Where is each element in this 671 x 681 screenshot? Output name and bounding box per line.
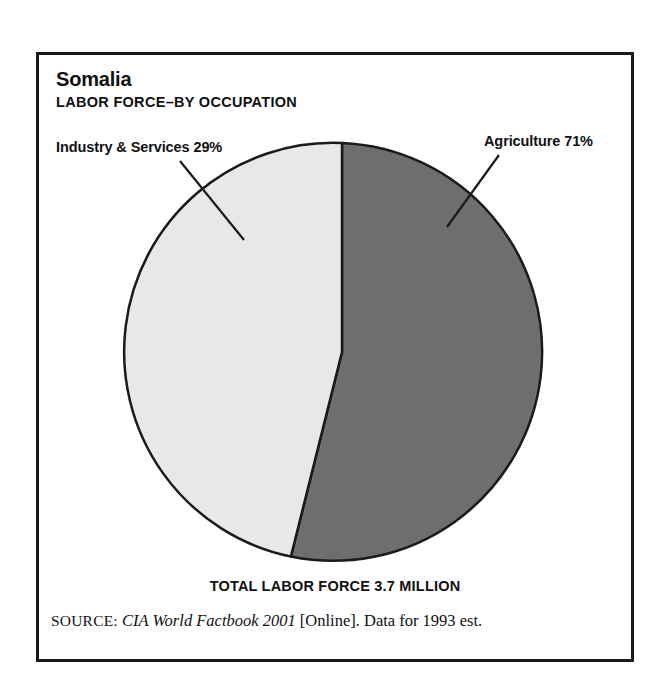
source-detail: [Online]. Data for 1993 est. [300,611,482,630]
pie-label-industry-services: Industry & Services 29% [56,139,222,155]
source-work-title: CIA World Factbook 2001 [122,611,296,630]
total-labor-force-caption: TOTAL LABOR FORCE 3.7 MILLION [39,578,631,594]
source-note: SOURCE: CIA World Factbook 2001 [Online]… [51,611,621,631]
pie-chart: Industry & Services 29% Agriculture 71% [39,55,631,659]
figure-frame: Somalia LABOR FORCE–BY OCCUPATION Indust… [36,52,634,662]
pie-label-agriculture: Agriculture 71% [484,133,593,149]
source-label: SOURCE: [51,612,118,629]
